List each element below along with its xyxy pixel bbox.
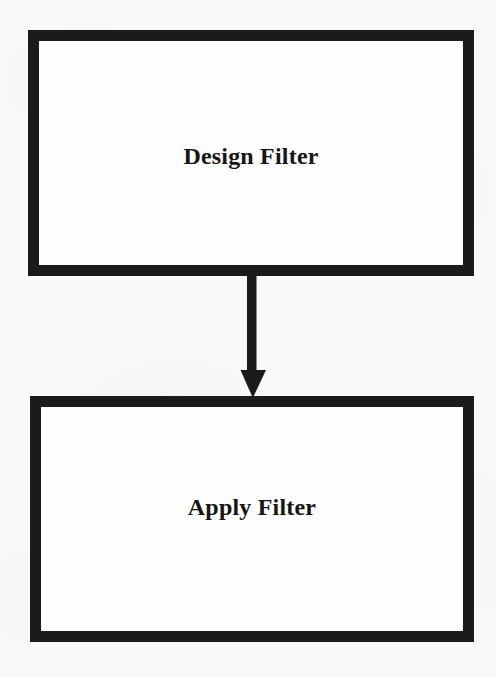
flowchart-canvas: Design Filter Apply Filter	[0, 0, 496, 677]
flowchart-edge-design-to-apply	[226, 266, 280, 400]
flowchart-node-design-filter[interactable]: Design Filter	[28, 30, 474, 276]
flowchart-node-label: Apply Filter	[41, 495, 463, 519]
arrow-shaft	[247, 266, 257, 374]
flowchart-node-apply-filter[interactable]: Apply Filter	[30, 396, 474, 642]
flowchart-node-label: Design Filter	[39, 144, 463, 168]
arrow-head-icon	[241, 370, 267, 398]
